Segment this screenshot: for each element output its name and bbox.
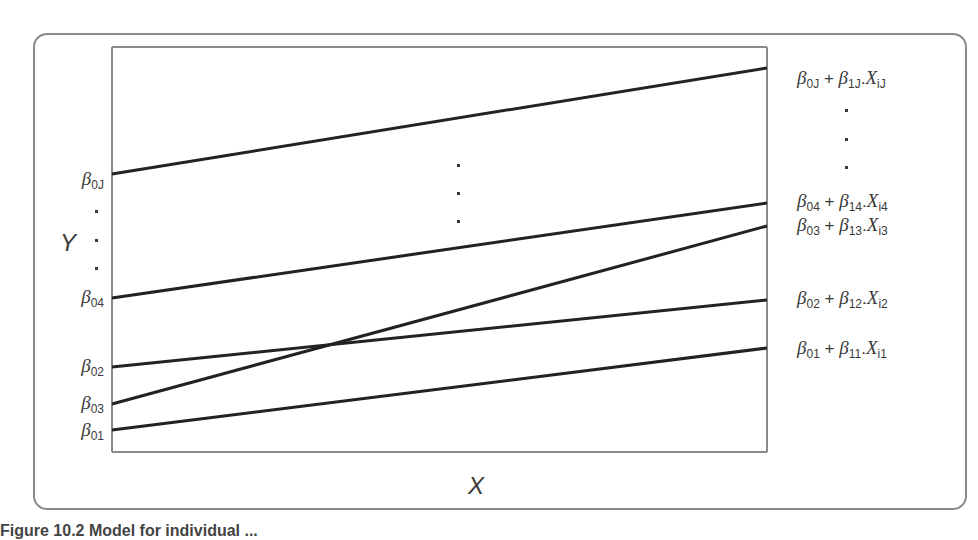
x-axis-title: X	[468, 474, 484, 498]
beta-symbol: β	[81, 392, 90, 413]
regression-line-3	[112, 226, 767, 404]
subscript: 0J	[806, 77, 819, 91]
subscript: iJ	[877, 77, 886, 91]
beta-symbol: β	[81, 419, 90, 440]
ellipsis-dot	[95, 239, 98, 242]
x-symbol: X	[867, 287, 879, 308]
y-axis-title: Y	[60, 231, 76, 255]
subscript: 1J	[848, 77, 861, 91]
beta-symbol: β	[839, 67, 848, 88]
subscript: 01	[806, 347, 819, 361]
subscript: 12	[849, 297, 862, 311]
intercept-label-b04: β04	[81, 287, 104, 309]
ellipsis-dot	[95, 267, 98, 270]
equation-label-eqJ: β0J + β1J.XiJ	[797, 68, 886, 90]
beta-symbol: β	[81, 355, 90, 376]
ellipsis-dot	[845, 109, 848, 112]
intercept-label-b03: β03	[81, 393, 104, 415]
equation-label-eq1: β01 + β11.Xi1	[797, 338, 887, 360]
subscript: 11	[849, 347, 861, 361]
subscript: 04	[806, 200, 819, 214]
intercept-label-b0J: β0J	[82, 169, 104, 191]
subscript: i3	[878, 224, 887, 238]
equation-label-eq4: β04 + β14.Xi4	[797, 191, 888, 213]
subscript: 0J	[91, 178, 104, 192]
beta-symbol: β	[839, 190, 848, 211]
subscript: 02	[806, 297, 819, 311]
regression-line-1	[112, 348, 767, 430]
subscript: i4	[878, 200, 887, 214]
ellipsis-dot	[457, 192, 460, 195]
subscript: 13	[849, 224, 862, 238]
beta-symbol: β	[81, 286, 90, 307]
beta-symbol: β	[82, 168, 91, 189]
ellipsis-dot	[457, 220, 460, 223]
equation-label-eq2: β02 + β12.Xi2	[797, 288, 888, 310]
x-symbol: X	[865, 67, 877, 88]
x-symbol: X	[867, 190, 879, 211]
regression-line-J	[112, 68, 767, 174]
subscript: 01	[91, 429, 104, 443]
regression-line-4	[112, 203, 767, 298]
regression-line-2	[112, 300, 767, 367]
beta-symbol: β	[839, 287, 848, 308]
x-symbol: X	[867, 214, 879, 235]
ellipsis-dot	[845, 166, 848, 169]
subscript: i2	[878, 297, 887, 311]
ellipsis-dot	[457, 164, 460, 167]
subscript: i1	[877, 347, 886, 361]
equation-label-eq3: β03 + β13.Xi3	[797, 215, 888, 237]
beta-symbol: β	[839, 214, 848, 235]
x-symbol: X	[866, 337, 878, 358]
intercept-label-b01: β01	[81, 420, 104, 442]
ellipsis-dot	[845, 138, 848, 141]
subscript: 02	[91, 365, 104, 379]
subscript: 03	[91, 402, 104, 416]
subscript: 03	[806, 224, 819, 238]
subscript: 04	[91, 296, 104, 310]
subscript: 14	[849, 200, 862, 214]
regression-lines	[112, 68, 767, 430]
figure-caption: Figure 10.2 Model for individual ...	[0, 522, 258, 540]
intercept-label-b02: β02	[81, 356, 104, 378]
beta-symbol: β	[839, 337, 848, 358]
ellipsis-dot	[95, 210, 98, 213]
